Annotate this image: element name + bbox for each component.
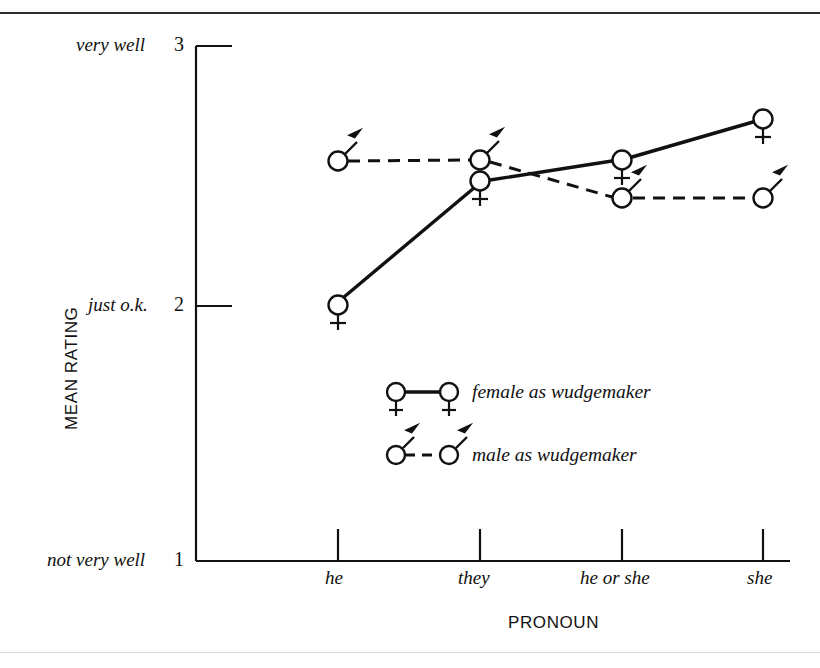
axis-spines <box>196 46 790 561</box>
female-marker <box>754 110 773 145</box>
y-tick-label-not-very-well: not very well <box>47 549 145 571</box>
x-axis-title: PRONOUN <box>508 613 599 633</box>
series-female-as-wudgemaker <box>329 110 773 331</box>
legend-male-glyph <box>387 437 467 464</box>
x-tick-label-she: she <box>747 567 772 589</box>
x-tick-label-they: they <box>458 567 490 589</box>
male-marker <box>754 179 783 208</box>
female-marker <box>471 172 490 207</box>
male-line-segment <box>490 162 612 197</box>
male-marker <box>613 179 642 208</box>
y-tick-value-1: 1 <box>174 548 184 571</box>
y-tick-value-2: 2 <box>174 293 184 316</box>
y-tick-label-just-ok: just o.k. <box>88 294 148 316</box>
female-marker <box>329 296 348 331</box>
legend-label-female: female as wudgemaker <box>472 381 651 403</box>
legend-label-male: male as wudgemaker <box>472 444 637 466</box>
x-tick-label-he: he <box>325 567 343 589</box>
male-marker <box>329 142 358 171</box>
y-tick-marks <box>196 46 232 306</box>
male-marker <box>471 141 500 170</box>
x-tick-label-he-or-she: he or she <box>580 567 650 589</box>
y-axis-title: MEAN RATING <box>62 307 82 430</box>
female-line-segment <box>490 161 612 180</box>
male-line-segment <box>348 160 470 161</box>
series-male-as-wudgemaker <box>329 141 783 208</box>
female-line-segment <box>344 188 474 297</box>
female-marker <box>613 151 632 186</box>
legend-female-glyph <box>387 383 458 416</box>
female-line-segment <box>632 122 753 157</box>
figure-canvas: very well 3 just o.k. 2 not very well 1 … <box>0 0 820 668</box>
x-tick-marks <box>338 529 763 561</box>
y-tick-value-3: 3 <box>174 33 184 56</box>
y-tick-label-very-well: very well <box>76 34 145 56</box>
